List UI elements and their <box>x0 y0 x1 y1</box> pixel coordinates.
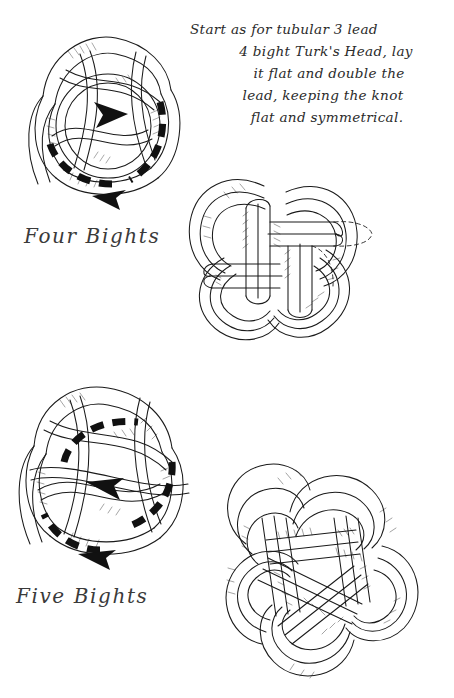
rope-tail <box>19 446 46 544</box>
diagram-page: Start as for tubular 3 lead 4 bight Turk… <box>0 0 454 698</box>
direction-arrow <box>86 478 124 500</box>
rope-tail <box>29 96 55 184</box>
rope-bight <box>286 186 357 286</box>
rope-bar-vertical-right <box>288 244 312 312</box>
figure-five-bights-mat <box>186 448 444 696</box>
instruction-text: Start as for tubular 3 lead 4 bight Turk… <box>186 18 452 128</box>
caption-four-bights: Four Bights <box>24 224 160 248</box>
direction-arrow <box>94 102 128 128</box>
direction-arrow <box>92 190 126 210</box>
rope-bight <box>189 180 265 280</box>
rope-shading <box>227 470 400 678</box>
rope-bar-diagonal-a <box>258 558 362 624</box>
caption-five-bights: Five Bights <box>16 584 148 608</box>
rope-bight <box>199 258 279 340</box>
rope-shading <box>37 393 171 547</box>
direction-arrow <box>78 550 116 570</box>
instruction-line-5: flat and symmetrical. <box>186 106 452 128</box>
rope-strand <box>43 37 171 104</box>
rope-bight <box>260 605 354 676</box>
instruction-line-4: lead, keeping the knot <box>186 84 452 106</box>
figure-four-bights-mat <box>168 146 380 358</box>
instruction-line-3: it flat and double the <box>186 62 452 84</box>
rope-bight <box>268 250 350 337</box>
rope-strand <box>30 396 189 537</box>
instruction-line-1: Start as for tubular 3 lead <box>186 18 452 40</box>
figure-five-bights-start <box>4 374 212 576</box>
rope-bight <box>226 551 298 644</box>
rope-bight <box>290 476 385 550</box>
rope-bar-horizontal-top <box>268 222 336 246</box>
instruction-line-2: 4 bight Turk's Head, lay <box>186 40 452 62</box>
